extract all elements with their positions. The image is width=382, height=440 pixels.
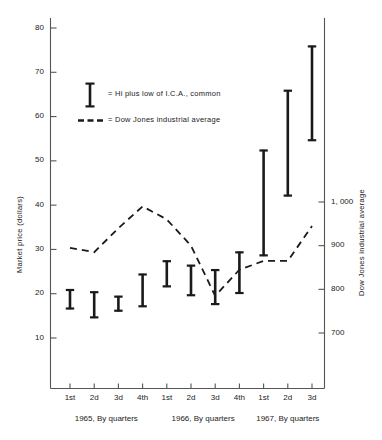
y-axis-left-tick-label: 80 [14,23,44,32]
y-axis-right-title: Dow Jones industrial average [357,188,366,298]
legend-label-dashed-line: = Dow Jones industrial average [108,115,220,124]
y-axis-right-tick-label: 900 [331,240,344,249]
axis-frame [51,18,325,389]
y-axis-right-ticks [319,202,325,333]
range-bar [163,261,171,288]
y-axis-left-tick-label: 70 [14,67,44,76]
x-axis-ticks [70,384,312,389]
range-bar [211,269,219,304]
chart-page: Market price (dollars) Dow Jones industr… [0,0,382,440]
y-axis-left-tick-label: 30 [14,244,44,253]
y-axis-left-ticks [51,28,57,338]
legend-markers [78,83,103,121]
y-axis-right-tick-label: 800 [331,284,344,293]
range-bar [284,90,292,196]
range-bar [259,150,267,256]
range-bar-group [66,46,316,318]
x-axis-tick-label: 3d [297,393,327,402]
y-axis-left-tick-label: 60 [14,111,44,120]
y-axis-left-tick-label: 40 [14,200,44,209]
x-axis-group-label: 1965, By quarters [56,414,156,423]
range-bar [138,274,146,307]
x-axis-group-label: 1967, By quarters [238,414,338,423]
y-axis-left-tick-label: 10 [14,333,44,342]
range-bar [90,292,98,319]
range-bar [66,289,74,309]
range-bar [114,296,122,312]
legend-label-range-bar: = Hi plus low of I.C.A., common [108,89,221,98]
legend-marker-range-bar [86,83,95,107]
y-axis-right-tick-label: 1, 000 [331,197,353,206]
y-axis-left-tick-label: 20 [14,288,44,297]
range-bar [308,46,316,141]
range-bar [187,265,195,296]
y-axis-left-tick-label: 50 [14,155,44,164]
y-axis-right-tick-label: 700 [331,328,344,337]
chart-plot-area [0,0,382,440]
